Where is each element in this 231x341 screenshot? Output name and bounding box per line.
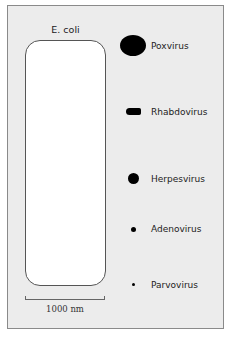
herpesvirus-shape: [128, 173, 139, 184]
ecoli-cell-shape: [25, 40, 106, 286]
herpesvirus-label: Herpesvirus: [151, 173, 205, 185]
ecoli-label: E. coli: [0, 24, 131, 35]
parvovirus-shape: [132, 283, 135, 286]
adenovirus-shape: [131, 227, 136, 232]
parvovirus-label: Parvovirus: [151, 279, 198, 291]
scale-bar: [25, 296, 105, 300]
poxvirus-shape: [120, 35, 146, 56]
rhabdovirus-shape: [126, 108, 141, 115]
adenovirus-label: Adenovirus: [151, 223, 201, 235]
rhabdovirus-label: Rhabdovirus: [151, 106, 207, 118]
poxvirus-label: Poxvirus: [151, 40, 189, 52]
scale-bar-label: 1000 nm: [25, 304, 105, 314]
